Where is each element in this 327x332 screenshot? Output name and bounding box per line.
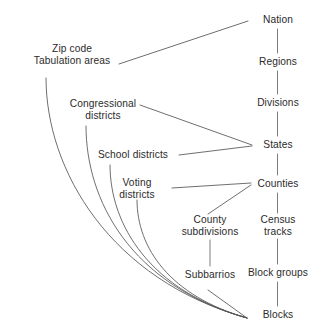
edge-congressional-states [140, 105, 252, 145]
edge-voting-districts-counties [172, 183, 251, 188]
node-school-districts[interactable]: School districts [98, 149, 168, 161]
node-counties[interactable]: Counties [257, 178, 298, 190]
node-blocks[interactable]: Blocks [263, 309, 294, 321]
node-block-groups[interactable]: Block groups [248, 267, 308, 279]
edge-zcta-nation [119, 21, 248, 64]
edge-subbarrios-blocks [208, 290, 247, 318]
edge-school-districts-states [179, 146, 252, 155]
node-nation[interactable]: Nation [263, 14, 293, 26]
node-voting-districts[interactable]: Voting districts [119, 177, 154, 202]
node-divisions[interactable]: Divisions [257, 97, 299, 109]
node-regions[interactable]: Regions [259, 56, 297, 68]
node-congressional-districts[interactable]: Congressional districts [70, 98, 136, 123]
node-subbarrios[interactable]: Subbarrios [185, 269, 235, 281]
node-census-tracks[interactable]: Census tracks [260, 214, 295, 239]
node-states[interactable]: States [263, 139, 292, 151]
census-hierarchy-diagram: Nation Regions Divisions States Counties… [0, 0, 327, 332]
edge-county-subdivisions-counties [208, 185, 251, 214]
node-zip-code-tabulation-areas[interactable]: Zip code Tabulation areas [34, 43, 110, 68]
node-county-subdivisions[interactable]: County subdivisions [182, 214, 239, 239]
